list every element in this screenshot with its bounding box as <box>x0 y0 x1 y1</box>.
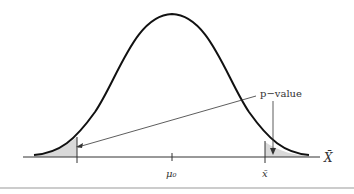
axis-label: X̄ <box>323 150 333 165</box>
p-value-diagram: X̄ μ₀ x̄ p−value <box>0 0 354 194</box>
xbar-label: x̄ <box>262 168 268 179</box>
mean-label: μ₀ <box>166 168 177 179</box>
p-value-label: p−value <box>260 88 302 99</box>
left-pointer-line <box>78 96 256 147</box>
normal-curve <box>34 14 309 155</box>
